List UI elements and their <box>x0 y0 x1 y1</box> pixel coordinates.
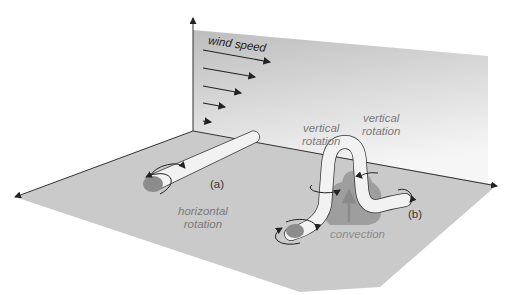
panel-tag-a: (a) <box>210 178 224 190</box>
vertical-rotation-label-left: vertical rotation <box>302 122 340 148</box>
horizontal-rotation-label: horizontal rotation <box>178 205 228 231</box>
convection-label: convection <box>330 228 385 241</box>
vorticity-diagram: wind speed horizontal rotation vertical … <box>0 0 513 295</box>
panel-tag-b: (b) <box>408 208 422 220</box>
vertical-rotation-label-right: vertical rotation <box>362 112 400 138</box>
